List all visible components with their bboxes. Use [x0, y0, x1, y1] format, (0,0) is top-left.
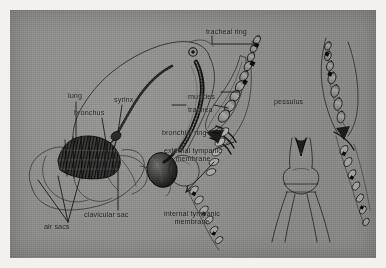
label-clavicular-sac: clavicular sac — [84, 211, 129, 219]
clavicular-sac-outline — [118, 156, 147, 194]
label-external-tympanic-membrane: external tympanic membrane — [154, 147, 232, 164]
leader-tracheal-ring — [212, 36, 256, 44]
leader-internal-tympanic-membrane — [186, 162, 214, 192]
label-tracheal-ring: tracheal ring — [206, 28, 247, 36]
label-muscles: muscles — [188, 93, 215, 101]
figure-plate: tracheal ring lung syrinx bronchus muscl… — [10, 10, 376, 258]
label-bronchus: bronchus — [74, 109, 104, 117]
leader-lines-figure-4 — [186, 162, 214, 192]
figure-syrinx-right-lateral-view — [321, 38, 371, 227]
label-internal-tympanic-membrane: internal tympanic membrane — [152, 210, 232, 227]
tracheal-ring-chain — [216, 35, 262, 125]
label-trachea: trachea — [188, 106, 213, 114]
label-pessulus: pessulus — [274, 98, 303, 106]
label-lung: lung — [68, 92, 82, 100]
figure-whole-bird-respiratory-tract — [29, 40, 214, 210]
figure-syrinx-ventral-view — [272, 136, 330, 242]
leader-air-sac-c — [68, 178, 80, 222]
label-syrinx: syrinx — [114, 96, 133, 104]
label-air-sacs: air sacs — [44, 223, 70, 231]
eye-marking — [189, 48, 197, 56]
label-bronchial-ring: bronchial ring — [162, 129, 207, 137]
